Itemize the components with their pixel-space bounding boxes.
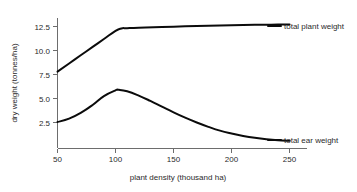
x-axis-ticks: 50 100 150 200 250: [53, 149, 297, 165]
x-tick-label: 100: [109, 155, 123, 164]
x-tick-label: 200: [225, 155, 239, 164]
y-tick-label: 5.0: [39, 95, 51, 104]
x-tick-label: 150: [167, 155, 181, 164]
series-label-total-plant-weight: total plant weight: [284, 22, 345, 31]
series-label-total-ear-weight: total ear weight: [284, 136, 339, 145]
y-axis-ticks: 12.5 10.0 7.5 5.0 2.5: [34, 23, 57, 128]
y-tick-label: 7.5: [39, 71, 51, 80]
series-line-total-plant-weight: [58, 24, 290, 71]
chart-figure: 12.5 10.0 7.5 5.0 2.5 50 100 150 200 250…: [0, 0, 357, 192]
x-tick-label: 50: [53, 155, 62, 164]
x-axis-title: plant density (thousand ha): [130, 173, 227, 182]
chart-plot-area: 12.5 10.0 7.5 5.0 2.5 50 100 150 200 250…: [0, 0, 357, 192]
y-tick-label: 2.5: [39, 119, 51, 128]
y-axis-title: dry weight (tonnes/ha): [10, 43, 19, 122]
series-line-total-ear-weight: [58, 90, 290, 141]
x-tick-label: 250: [283, 155, 297, 164]
y-tick-label: 10.0: [34, 47, 50, 56]
y-tick-label: 12.5: [34, 23, 50, 32]
